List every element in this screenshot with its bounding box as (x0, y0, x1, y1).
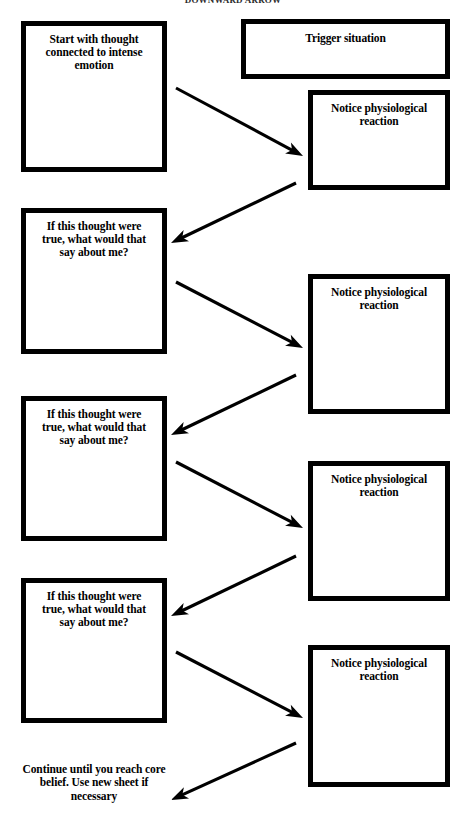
if-this-thought-were-true-box-3[interactable]: If this thought were true, what would th… (21, 578, 167, 723)
arrow-down-left-3 (171, 556, 296, 616)
continue-until-core-belief-note: Continue until you reach core belief. Us… (16, 763, 172, 803)
start-with-thought-box-label: Start with thought connected to intense … (26, 26, 162, 73)
trigger-situation-box-label: Trigger situation (246, 24, 445, 45)
if-this-thought-were-true-box-1[interactable]: If this thought were true, what would th… (21, 208, 167, 354)
notice-physiological-reaction-box-3-label: Notice physiological reaction (313, 466, 445, 499)
page-title: DOWNWARD ARROW (0, 0, 466, 3)
trigger-situation-box[interactable]: Trigger situation (241, 19, 450, 79)
arrow-down-left-1 (171, 183, 296, 243)
notice-physiological-reaction-box-4[interactable]: Notice physiological reaction (308, 645, 450, 787)
notice-physiological-reaction-box-4-label: Notice physiological reaction (313, 650, 445, 683)
arrow-down-right-3 (176, 462, 303, 528)
notice-physiological-reaction-box-1[interactable]: Notice physiological reaction (308, 90, 450, 190)
notice-physiological-reaction-box-2[interactable]: Notice physiological reaction (308, 274, 450, 414)
arrow-down-right-2 (176, 282, 303, 348)
if-this-thought-were-true-box-1-label: If this thought were true, what would th… (26, 213, 162, 260)
notice-physiological-reaction-box-1-label: Notice physiological reaction (313, 95, 445, 128)
if-this-thought-were-true-box-2[interactable]: If this thought were true, what would th… (21, 396, 167, 541)
start-with-thought-box[interactable]: Start with thought connected to intense … (21, 21, 167, 172)
notice-physiological-reaction-box-3[interactable]: Notice physiological reaction (308, 461, 450, 601)
arrow-down-left-2 (171, 375, 296, 435)
arrow-down-left-4 (171, 743, 296, 800)
notice-physiological-reaction-box-2-label: Notice physiological reaction (313, 279, 445, 312)
if-this-thought-were-true-box-2-label: If this thought were true, what would th… (26, 401, 162, 448)
arrow-down-right-4 (176, 652, 303, 718)
arrow-down-right-1 (176, 88, 303, 156)
if-this-thought-were-true-box-3-label: If this thought were true, what would th… (26, 583, 162, 630)
worksheet-page: DOWNWARD ARROW Start with thought connec… (0, 0, 466, 838)
